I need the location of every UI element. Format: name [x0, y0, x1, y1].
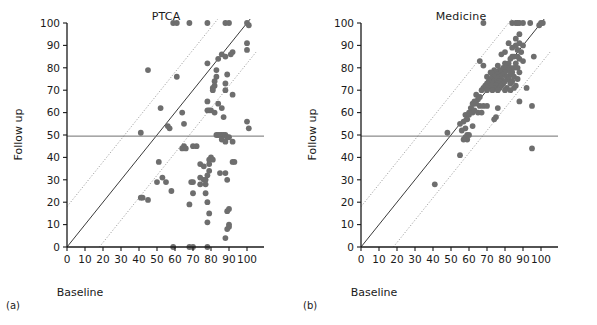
x-tick-label: 30	[114, 253, 127, 265]
y-tick-label: 40	[341, 151, 354, 163]
y-tick-label: 60	[341, 106, 354, 118]
y-tick-label: 0	[53, 241, 60, 253]
data-point	[515, 76, 521, 82]
data-point	[214, 67, 220, 73]
x-tick-label: 60	[462, 253, 475, 265]
data-point	[490, 87, 496, 93]
data-point	[479, 87, 485, 93]
data-point	[163, 179, 169, 185]
data-point	[508, 87, 514, 93]
data-point	[223, 235, 229, 241]
y-tick-label: 90	[341, 39, 354, 51]
data-point	[223, 54, 229, 60]
y-tick-label: 70	[341, 84, 354, 96]
x-tick-label: 30	[408, 253, 421, 265]
data-point	[520, 20, 526, 26]
data-point	[461, 137, 467, 143]
data-point	[219, 105, 225, 111]
data-point	[484, 87, 490, 93]
x-tick-label: 100	[531, 253, 551, 265]
y-tick-label: 20	[47, 196, 60, 208]
y-tick-label: 90	[47, 39, 60, 51]
y-tick-label: 30	[341, 174, 354, 186]
y-tick-label: 40	[47, 151, 60, 163]
x-tick-label: 90	[516, 253, 529, 265]
x-tick-label: 40	[426, 253, 439, 265]
data-point	[508, 81, 514, 87]
identity-line	[361, 19, 545, 247]
data-point	[205, 107, 211, 113]
data-point	[459, 128, 465, 134]
data-point	[524, 85, 530, 91]
data-point	[518, 49, 524, 55]
y-tick-label: 30	[47, 174, 60, 186]
data-point	[223, 81, 229, 87]
data-point	[205, 20, 211, 26]
data-point	[517, 31, 523, 37]
data-point	[481, 63, 487, 69]
data-point	[502, 87, 508, 93]
data-point	[531, 54, 537, 60]
data-point	[187, 202, 193, 208]
x-tick-label: 0	[358, 253, 365, 265]
data-point	[481, 20, 487, 26]
data-point	[457, 121, 463, 127]
data-point	[210, 157, 216, 163]
y-tick-label: 60	[47, 106, 60, 118]
x-tick-label: 70	[186, 253, 199, 265]
upper-limit-line	[361, 19, 512, 207]
data-point	[536, 22, 542, 28]
data-point	[201, 163, 207, 169]
data-point	[246, 22, 252, 28]
data-point	[217, 170, 223, 176]
data-point	[190, 190, 196, 196]
lower-limit-line	[393, 52, 550, 247]
data-point	[181, 121, 187, 127]
y-tick-label: 20	[341, 196, 354, 208]
data-point	[145, 197, 151, 203]
data-point	[520, 58, 526, 64]
data-point	[228, 51, 234, 57]
data-point	[183, 146, 189, 152]
data-point	[223, 139, 229, 145]
x-tick-label: 90	[222, 253, 235, 265]
data-point	[509, 45, 515, 51]
data-point	[145, 67, 151, 73]
data-point	[495, 87, 501, 93]
data-point	[445, 130, 451, 136]
data-point	[457, 152, 463, 158]
y-tick-label: 70	[47, 84, 60, 96]
panel-b-plot: 0102030405060708090100010203040506070809…	[297, 0, 595, 325]
data-point	[156, 159, 162, 165]
data-point	[221, 114, 227, 120]
data-point	[210, 87, 216, 93]
data-point	[226, 20, 232, 26]
y-tick-label: 100	[334, 17, 354, 29]
x-tick-label: 80	[204, 253, 217, 265]
data-point	[517, 99, 523, 105]
data-point	[517, 69, 523, 75]
data-point	[527, 20, 533, 26]
data-point	[484, 103, 490, 109]
data-point	[470, 123, 476, 129]
y-tick-label: 80	[47, 62, 60, 74]
data-point	[206, 161, 212, 167]
x-tick-label: 50	[150, 253, 163, 265]
panel-ptca: PTCA 01020304050607080901000102030405060…	[0, 0, 298, 325]
x-tick-label: 40	[132, 253, 145, 265]
x-tick-label: 20	[390, 253, 403, 265]
data-point	[205, 219, 211, 225]
subfigure-a-label: (a)	[6, 300, 20, 311]
data-point	[244, 119, 250, 125]
data-point	[190, 143, 196, 149]
x-tick-label: 80	[498, 253, 511, 265]
data-point	[138, 195, 144, 201]
data-point	[215, 101, 221, 107]
x-tick-label: 60	[168, 253, 181, 265]
data-point	[188, 179, 194, 185]
data-point	[432, 181, 438, 187]
data-point	[224, 72, 230, 78]
y-tick-label: 50	[47, 129, 60, 141]
data-point	[223, 170, 229, 176]
data-point	[154, 179, 160, 185]
